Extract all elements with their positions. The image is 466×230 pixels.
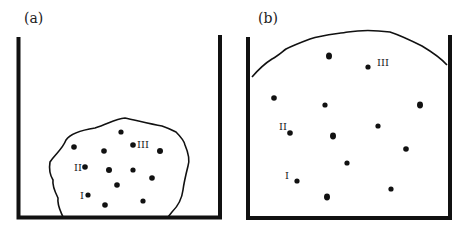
label-III-a: III (137, 139, 149, 150)
particle-III (130, 142, 136, 148)
panel-a: (a) III II I (19, 10, 221, 218)
particle (375, 123, 380, 128)
particle-III (365, 64, 370, 69)
particle (417, 102, 423, 109)
label-I-b: I (285, 170, 289, 181)
particles-b (271, 53, 423, 201)
particle (157, 148, 163, 154)
particle (102, 202, 108, 208)
particle (344, 160, 349, 165)
label-III-b: III (377, 57, 389, 68)
diagram-canvas: (a) III II I (b) (0, 0, 466, 230)
panel-a-label: (a) (24, 10, 43, 26)
particle-I (294, 178, 299, 183)
label-II-b: II (279, 121, 287, 132)
particle-II (287, 130, 293, 136)
particle (403, 146, 409, 152)
particle (130, 167, 135, 172)
particle (326, 53, 332, 60)
particle (324, 194, 330, 201)
label-II-a: II (74, 162, 82, 173)
particle (388, 186, 393, 191)
surface-curve (252, 31, 447, 78)
particle-II (82, 164, 88, 170)
panel-b: (b) III II I (248, 10, 450, 218)
particle (71, 144, 77, 150)
particle (271, 95, 277, 101)
particle (114, 182, 120, 188)
particle (101, 148, 107, 154)
particle-I (85, 192, 90, 197)
particle (149, 175, 155, 181)
particle (118, 129, 123, 134)
container-a (19, 35, 221, 218)
label-I-a: I (80, 190, 84, 201)
particle (322, 102, 327, 107)
particle (140, 198, 145, 203)
particles-a (71, 129, 163, 207)
particle (106, 167, 112, 173)
particle (330, 133, 336, 140)
panel-b-label: (b) (258, 10, 278, 26)
